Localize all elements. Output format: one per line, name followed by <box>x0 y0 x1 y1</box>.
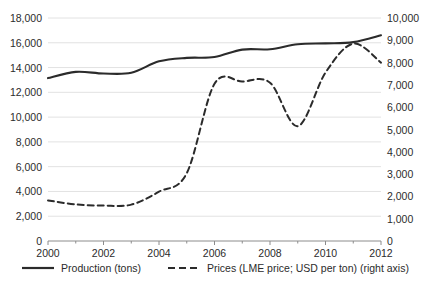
y-axis-right-tick-label: 4,000 <box>387 147 430 158</box>
y-axis-right-tick-label: 8,000 <box>387 58 430 69</box>
x-axis-tick-label: 2012 <box>359 248 403 259</box>
x-axis-tick-label: 2002 <box>82 248 126 259</box>
y-axis-left-tick-label: 18,000 <box>0 13 42 24</box>
y-axis-right-tick-label: 10,000 <box>387 13 430 24</box>
y-axis-right-tick-label: 6,000 <box>387 102 430 113</box>
y-axis-right-tick-label: 5,000 <box>387 125 430 136</box>
y-axis-right-tick-label: 1,000 <box>387 214 430 225</box>
legend-label-production: Production (tons) <box>61 262 141 274</box>
y-axis-right-tick-label: 7,000 <box>387 80 430 91</box>
y-axis-left-tick-label: 14,000 <box>0 63 42 74</box>
x-axis-tick-label: 2000 <box>26 248 70 259</box>
y-axis-left-tick-label: 2,000 <box>0 211 42 222</box>
y-axis-right-tick-label: 0 <box>387 236 430 247</box>
y-axis-left-tick-label: 4,000 <box>0 186 42 197</box>
y-axis-left-tick-label: 8,000 <box>0 137 42 148</box>
x-axis-tick-label: 2006 <box>193 248 237 259</box>
legend-swatch-dashed-icon <box>167 263 201 273</box>
y-axis-left-tick-label: 16,000 <box>0 38 42 49</box>
series-group <box>48 35 381 206</box>
series-line-production <box>48 35 381 78</box>
y-axis-left-tick-label: 12,000 <box>0 87 42 98</box>
legend-label-prices: Prices (LME price; USD per ton) (right a… <box>207 262 409 274</box>
y-axis-right-tick-label: 9,000 <box>387 35 430 46</box>
y-axis-right-tick-label: 2,000 <box>387 191 430 202</box>
chart-legend: Production (tons) Prices (LME price; USD… <box>0 262 430 274</box>
legend-swatch-solid-icon <box>21 263 55 273</box>
x-axis-tick-label: 2008 <box>248 248 292 259</box>
chart-container: 02,0004,0006,0008,00010,00012,00014,0001… <box>0 0 430 290</box>
x-axis-tick-label: 2004 <box>137 248 181 259</box>
gridline-group <box>48 18 381 241</box>
x-tick-group <box>48 241 381 245</box>
y-axis-left-tick-label: 10,000 <box>0 112 42 123</box>
y-axis-right-tick-label: 3,000 <box>387 169 430 180</box>
x-axis-tick-label: 2010 <box>304 248 348 259</box>
legend-item-prices[interactable]: Prices (LME price; USD per ton) (right a… <box>167 262 409 274</box>
y-axis-left-tick-label: 6,000 <box>0 162 42 173</box>
legend-item-production[interactable]: Production (tons) <box>21 262 141 274</box>
y-axis-left-tick-label: 0 <box>0 236 42 247</box>
